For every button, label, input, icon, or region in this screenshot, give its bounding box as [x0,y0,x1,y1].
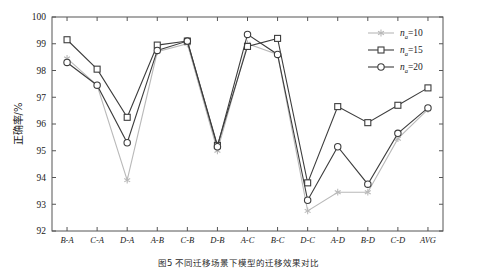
x-tick-label: D-B [209,235,224,245]
y-tick-label: 95 [37,146,47,156]
data-point [378,47,384,53]
data-point [425,85,431,91]
data-point [275,35,281,41]
data-point [184,38,190,44]
y-tick-label: 100 [32,12,47,22]
x-tick-label: A-C [240,235,255,245]
legend-label: na=10 [400,28,423,39]
legend-label: na=15 [400,45,423,56]
x-tick-label: D-A [119,235,135,245]
chart-legend: na=10na=15na=20 [368,28,423,73]
data-point [124,114,130,120]
data-point [425,105,431,111]
y-tick-label: 99 [37,39,47,49]
data-point [305,180,311,186]
data-point [335,144,341,150]
y-tick-label: 97 [37,93,47,103]
data-point [214,144,220,150]
data-point [64,59,70,65]
data-series-group [64,31,431,214]
data-point [365,120,371,126]
x-tick-label: B-D [361,235,376,245]
data-point [64,37,70,43]
x-tick-label: AVG [419,235,436,245]
x-tick-label: D-C [299,235,315,245]
legend-item: na=10 [368,28,423,39]
x-tick-label: B-A [60,235,74,245]
x-tick-label: A-D [330,235,346,245]
x-tick-label: C-D [391,235,407,245]
y-tick-label: 94 [37,173,47,183]
data-point [335,104,341,110]
data-point [94,66,100,72]
y-tick-label: 98 [37,66,47,76]
legend-label: na=20 [400,62,423,73]
data-point [378,64,384,70]
data-point [94,82,100,88]
x-tick-label: A-B [150,235,164,245]
data-point [395,130,401,136]
legend-item: na=20 [368,62,423,73]
series-square [64,35,431,185]
data-point [274,51,280,57]
data-point [244,31,250,37]
y-axis-label: 正确率/% [12,103,24,146]
data-point [154,47,160,53]
y-tick-label: 93 [37,200,47,210]
x-tick-label: B-C [271,235,285,245]
data-point [304,197,310,203]
figure-caption: 图5 不同迁移场景下模型的迁移效果对比 [0,256,477,268]
x-tick-label: C-A [90,235,105,245]
y-axis-ticks: 9293949596979899100 [32,12,443,236]
data-point [365,181,371,187]
data-point [395,102,401,108]
data-point [124,140,130,146]
legend-item: na=15 [368,45,423,56]
y-tick-label: 96 [37,119,47,129]
y-axis-label-text: 正确率/% [12,103,24,146]
x-tick-label: C-B [180,235,194,245]
y-tick-label: 92 [37,226,47,236]
